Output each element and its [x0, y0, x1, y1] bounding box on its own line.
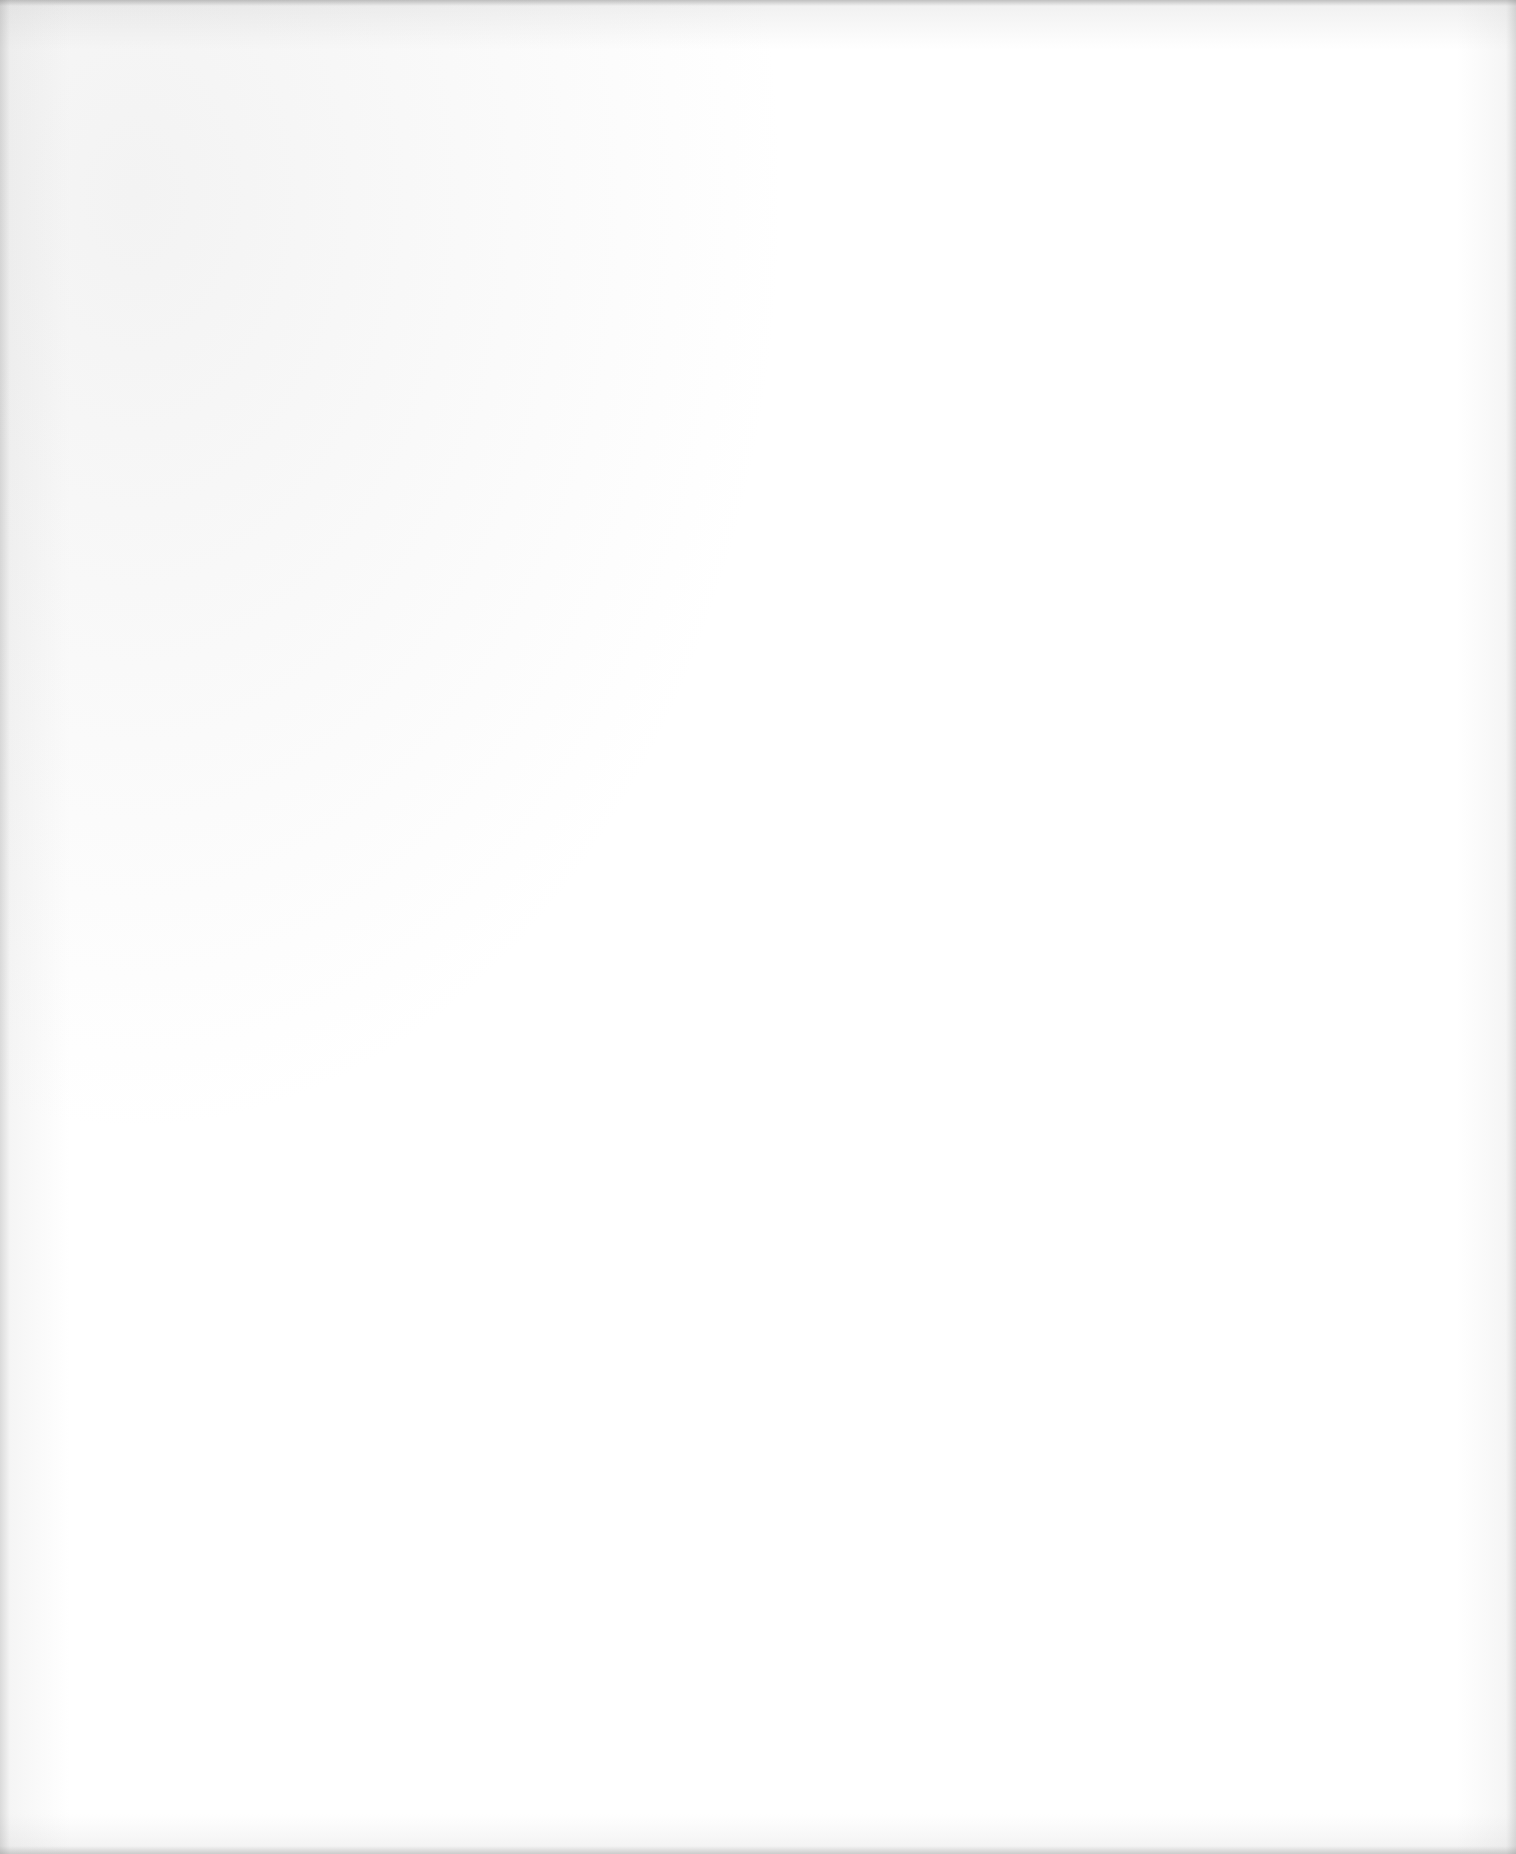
page-content-area — [60, 60, 1456, 1794]
blank-scanned-page — [0, 0, 1516, 1854]
